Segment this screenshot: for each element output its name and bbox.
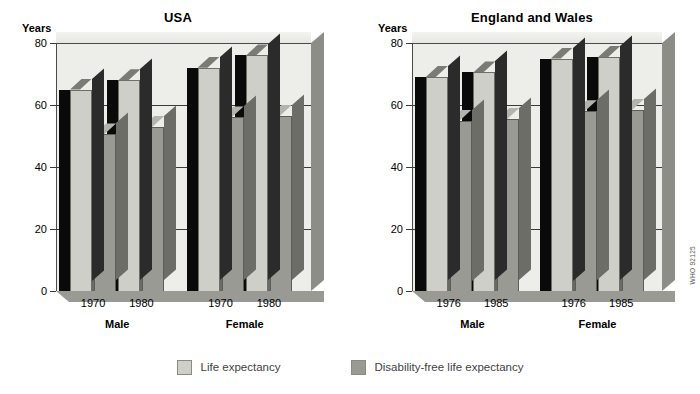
y-tick-mark [50, 105, 56, 106]
chart-panel-usa: Years USA 020406080 1970198019701980Male… [0, 0, 350, 340]
bar-side-face [292, 94, 304, 280]
bar-left-edge [540, 59, 551, 292]
legend-item-life-expectancy: Life expectancy [177, 360, 281, 375]
bar-left-edge [415, 77, 426, 291]
y-tick-label: 20 [391, 224, 403, 235]
x-tick-label: 1976 [437, 297, 461, 309]
y-tick-mark [406, 43, 412, 44]
y-tick-label: 40 [391, 162, 403, 173]
y-tick-label: 80 [35, 38, 47, 49]
plot-area-usa: 020406080 [56, 43, 311, 291]
plot-box-right-face [662, 32, 675, 291]
x-axis-labels-england-and-wales: 1976198519761985MaleFemale [350, 297, 700, 337]
y-tick-mark [406, 167, 412, 168]
bar-left-edge [59, 90, 70, 292]
bar-side-face [140, 59, 152, 280]
y-tick-label: 60 [35, 100, 47, 111]
group-label-male: Male [460, 318, 484, 330]
chart-panel-england-and-wales: Years England and Wales 020406080 197619… [350, 0, 700, 340]
x-tick-label: 1970 [208, 297, 232, 309]
group-label-female: Female [226, 318, 264, 330]
y-tick-mark [50, 229, 56, 230]
y-tick-mark [406, 229, 412, 230]
who-watermark: WHO 92125 [689, 246, 696, 284]
bar-front-face [70, 90, 92, 292]
chart-legend: Life expectancyDisability-free life expe… [0, 352, 700, 382]
bar-side-face [644, 88, 656, 280]
group-label-male: Male [105, 318, 129, 330]
y-tick-mark [406, 291, 412, 292]
bar-life-expectancy-1976 [426, 77, 448, 291]
bar-side-face [519, 98, 531, 280]
x-tick-label: 1980 [257, 297, 281, 309]
y-tick-label: 40 [35, 162, 47, 173]
y-tick-label: 0 [41, 286, 47, 297]
x-axis-labels-usa: 1970198019701980MaleFemale [0, 297, 350, 337]
y-tick-label: 80 [391, 38, 403, 49]
bar-side-face [244, 96, 256, 280]
bar-side-face [472, 99, 484, 280]
bar-side-face [116, 113, 128, 280]
bar-side-face [268, 34, 280, 280]
y-tick-label: 0 [397, 286, 403, 297]
legend-swatch-life-expectancy [177, 360, 192, 375]
bar-side-face [92, 68, 104, 280]
bar-side-face [164, 105, 176, 280]
bar-life-expectancy-1976 [551, 59, 573, 292]
legend-item-disability-free-life-expectancy: Disability-free life expectancy [351, 360, 524, 375]
legend-label-disability-free-life-expectancy: Disability-free life expectancy [375, 361, 524, 373]
x-tick-label: 1985 [609, 297, 633, 309]
bar-front-face [426, 77, 448, 291]
x-tick-label: 1980 [129, 297, 153, 309]
bar-life-expectancy-1970 [70, 90, 92, 292]
y-tick-mark [50, 43, 56, 44]
chart-title-usa: USA [0, 10, 350, 25]
plot-area-england-and-wales: 020406080 [412, 43, 662, 291]
bar-side-face [220, 46, 232, 280]
y-tick-mark [50, 291, 56, 292]
x-tick-label: 1976 [562, 297, 586, 309]
y-tick-mark [50, 167, 56, 168]
chart-title-england-and-wales: England and Wales [350, 10, 700, 25]
life-expectancy-chart-figure: Years USA 020406080 1970198019701980Male… [0, 0, 700, 394]
bar-side-face [620, 36, 632, 280]
bar-side-face [597, 90, 609, 280]
bar-life-expectancy-1970 [198, 68, 220, 291]
group-label-female: Female [579, 318, 617, 330]
bar-front-face [551, 59, 573, 292]
y-tick-label: 60 [391, 100, 403, 111]
bar-left-edge [187, 68, 198, 291]
bar-side-face [448, 56, 460, 280]
bar-side-face [573, 37, 585, 280]
bar-side-face [495, 51, 507, 280]
x-tick-label: 1970 [81, 297, 105, 309]
legend-label-life-expectancy: Life expectancy [201, 361, 281, 373]
x-tick-label: 1985 [484, 297, 508, 309]
plot-box-right-face [311, 32, 324, 291]
y-tick-label: 20 [35, 224, 47, 235]
y-tick-mark [406, 105, 412, 106]
legend-swatch-disability-free-life-expectancy [351, 360, 366, 375]
bar-front-face [198, 68, 220, 291]
